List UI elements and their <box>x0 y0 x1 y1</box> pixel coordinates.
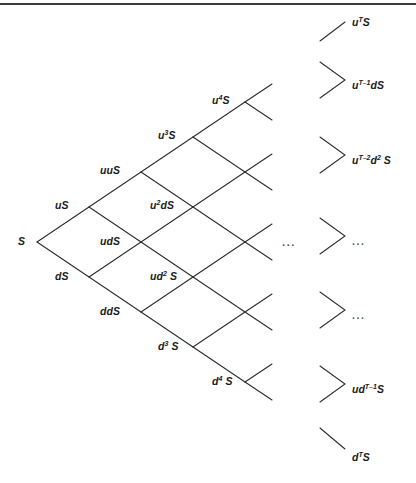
legend-label-udT1S: udT–1S <box>352 384 384 395</box>
edge-down-stub-3 <box>245 312 272 330</box>
edge-down-stub-1 <box>245 172 272 190</box>
legend-sup: T–1 <box>365 383 377 390</box>
figure-canvas: S uS dS uuS udS ddS u3S u2dS ud2 S d3 S … <box>0 0 416 483</box>
legend-label-uT2d2S: uT–2d2 S <box>352 155 391 166</box>
edge-up-stub-4 <box>245 364 272 382</box>
edge-down-stub-2 <box>245 242 272 260</box>
legend-glyph-single-down <box>320 428 345 449</box>
legend-tail: dS <box>370 79 383 91</box>
edge-up-u2dS <box>193 172 245 207</box>
legend-glyph-group <box>320 22 345 449</box>
lattice-continuation-ellipsis: ... <box>282 237 296 248</box>
legend-base: ud <box>352 383 365 395</box>
node-tail: S <box>223 94 230 106</box>
legend-glyph-fork-5 <box>320 366 345 402</box>
edge-up-uuS <box>141 137 193 172</box>
node-label-u4S: u4S <box>212 95 230 106</box>
legend-label-uT1dS: uT–1dS <box>352 80 384 91</box>
node-label-d4S: d4 S <box>212 376 233 387</box>
edge-down-ud2S <box>193 277 245 312</box>
edge-up-dS <box>89 242 141 277</box>
edge-down-u2dS <box>193 207 245 242</box>
edge-up-u3S <box>193 102 245 137</box>
edge-up-stub-0 <box>245 84 272 102</box>
node-label-dS: dS <box>55 271 69 282</box>
legend-glyph-fork-1 <box>320 62 345 98</box>
node-label-uS: uS <box>55 200 69 211</box>
node-label-root: S <box>18 236 25 247</box>
node-tail: S <box>169 340 179 352</box>
node-label-uuS: uuS <box>100 165 120 176</box>
edge-down-stub-4 <box>245 382 272 400</box>
edge-up-stub-2 <box>245 224 272 242</box>
edge-down-stub-0 <box>245 102 272 120</box>
edge-up-ud2S <box>193 242 245 277</box>
node-tail: S <box>169 129 176 141</box>
node-tail: dS <box>161 199 175 211</box>
node-tail: S <box>167 270 177 282</box>
edge-down-u3S <box>193 137 245 172</box>
legend-glyph-fork-2 <box>320 137 345 173</box>
node-label-d3S: d3 S <box>158 341 179 352</box>
node-label-ddS: ddS <box>100 306 120 317</box>
legend-tail: S <box>363 451 370 463</box>
legend-glyph-fork-4 <box>320 292 345 328</box>
node-label-u3S: u3S <box>158 130 176 141</box>
edge-up-stub-3 <box>245 294 272 312</box>
edge-up-udS <box>141 207 193 242</box>
legend-label-dTS: dTS <box>352 452 370 463</box>
edge-up-d3S <box>193 312 245 347</box>
legend-sup: T–2 <box>358 154 370 161</box>
node-base: ud <box>150 270 163 282</box>
legend-glyph-single-up <box>320 22 345 41</box>
legend-glyph-fork-3 <box>320 218 345 254</box>
node-tail: S <box>223 375 233 387</box>
node-label-u2dS: u2dS <box>150 200 174 211</box>
edge-up-stub-1 <box>245 154 272 172</box>
legend-tail-end: S <box>381 154 391 166</box>
legend-label-dots-2: ... <box>352 310 366 321</box>
edge-up-root <box>37 207 89 242</box>
legend-sup: T–1 <box>358 79 370 86</box>
legend-label-uT: uTS <box>352 17 370 28</box>
node-label-udS: udS <box>100 236 120 247</box>
node-label-ud2S: ud2 S <box>150 271 177 282</box>
edge-up-ddS <box>141 277 193 312</box>
legend-tail: S <box>377 383 384 395</box>
edge-up-uS <box>89 172 141 207</box>
legend-label-dots-1: ... <box>352 236 366 247</box>
legend-tail: S <box>363 16 370 28</box>
